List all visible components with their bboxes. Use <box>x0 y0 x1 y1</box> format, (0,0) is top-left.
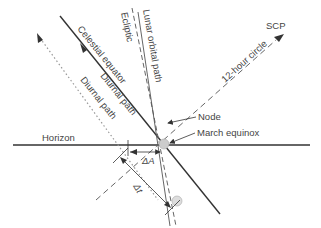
twelve-hour-circle-label: 12-hour circle <box>219 38 269 85</box>
march-equinox-leader-line <box>170 133 195 143</box>
delta-t-label: Δt <box>131 181 146 195</box>
celestial-geometry-diagram: Horizon Celestial equator Diurnal path D… <box>0 0 321 228</box>
scp-label: SCP <box>266 20 286 31</box>
delta-a-left-arrow-icon <box>130 149 137 155</box>
node-label: Node <box>198 111 221 122</box>
march-equinox-label: March equinox <box>197 127 260 138</box>
diurnal-path-dotted-line <box>40 38 158 200</box>
node-leader-line <box>168 117 196 123</box>
moon-position-marker <box>172 196 182 206</box>
equinox-point-marker <box>159 139 169 149</box>
horizon-label: Horizon <box>42 132 75 143</box>
scp-arrow-icon <box>274 34 284 42</box>
delta-a-label: ΔA <box>141 155 155 166</box>
